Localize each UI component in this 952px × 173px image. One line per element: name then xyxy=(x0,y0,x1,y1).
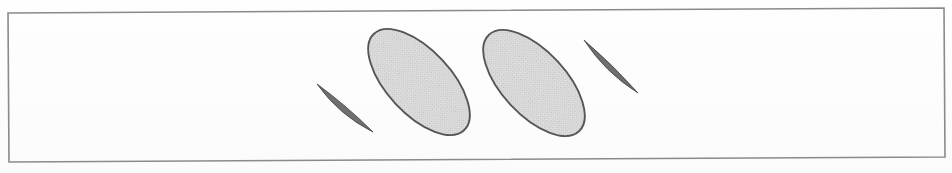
paper-background xyxy=(0,0,952,173)
figure-drawing xyxy=(0,0,952,173)
figure-canvas: Scanned line figure: two shaded ellipses… xyxy=(0,0,952,173)
